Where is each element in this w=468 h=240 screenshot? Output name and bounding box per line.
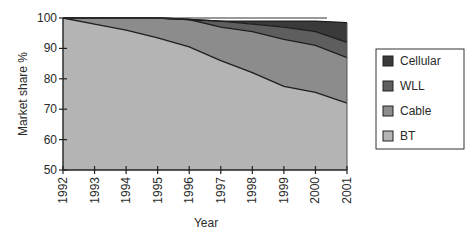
legend-swatch-cable [383, 106, 393, 116]
x-axis-ticks: 1992199319941995199619971998199920002001 [56, 166, 354, 204]
x-tick-label: 1998 [245, 177, 259, 204]
legend-label-wll: WLL [400, 79, 425, 93]
legend-swatch-bt [383, 131, 393, 141]
legend-label-bt: BT [400, 129, 416, 143]
x-tick-label: 2000 [308, 177, 322, 204]
legend-label-cellular: Cellular [400, 54, 441, 68]
chart-canvas: 5060708090100 19921993199419951996199719… [0, 0, 468, 240]
x-tick-label: 1995 [151, 177, 165, 204]
y-axis-title: Market share % [16, 52, 30, 136]
x-tick-label: 1994 [119, 177, 133, 204]
legend: CellularWLLCableBT [376, 49, 464, 149]
y-tick-label: 80 [44, 72, 58, 86]
y-tick-label: 70 [44, 102, 58, 116]
legend-swatch-wll [383, 81, 393, 91]
y-tick-label: 100 [37, 11, 57, 25]
legend-swatch-cellular [383, 56, 393, 66]
x-tick-label: 1996 [182, 177, 196, 204]
y-tick-label: 50 [44, 163, 58, 177]
x-tick-label: 1993 [88, 177, 102, 204]
y-tick-label: 90 [44, 41, 58, 55]
stacked-areas [63, 18, 347, 170]
x-tick-label: 2001 [340, 177, 354, 204]
x-tick-label: 1997 [214, 177, 228, 204]
x-tick-label: 1999 [277, 177, 291, 204]
x-tick-label: 1992 [56, 177, 70, 204]
x-axis-title: Year [194, 216, 218, 230]
y-tick-label: 60 [44, 133, 58, 147]
legend-label-cable: Cable [400, 104, 432, 118]
